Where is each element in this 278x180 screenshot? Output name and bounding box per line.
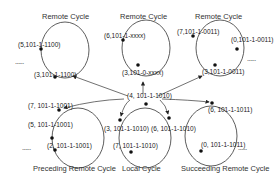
remote-cycle-left-title: Remote Cycle (42, 13, 89, 21)
ellipsis: ...... (15, 58, 24, 65)
cycle-diagram (0, 0, 278, 180)
node-label: (7,101-1-0011) (177, 29, 220, 36)
ellipsis: ...... (247, 55, 256, 62)
local-cycle-ring (119, 108, 171, 168)
node-label: (0,101-1-0011) (231, 37, 274, 44)
node-label: (3,101-1-1100) (34, 72, 77, 79)
node-label: (6,101-1-xxxx) (104, 33, 146, 40)
preceding-cycle-ring (52, 108, 104, 168)
preceding-cycle-title: Preceding Remote Cycle (33, 165, 116, 173)
ellipsis: ...... (238, 144, 247, 151)
node-label: (7, 101-1-1010) (113, 143, 158, 150)
ellipsis: ...... (22, 144, 31, 151)
remote-cycle-right-title: Remote Cycle (195, 13, 242, 21)
local-cycle-title: Local Cycle (122, 165, 161, 173)
remote-cycle-center-ring (122, 20, 170, 76)
node-label: (4, 101-1-1010) (127, 93, 172, 100)
node-label: (3, 101-1-1010) (104, 126, 149, 133)
node-label: (7, 101-1-1001) (28, 103, 73, 110)
remote-cycle-left-ring (41, 22, 89, 78)
node-label: (5, 101-1-1001) (28, 122, 73, 129)
node-label: (6, 101-1-1010) (151, 126, 196, 133)
succeeding-cycle-ring (185, 106, 237, 166)
node-label: (3,101-1-0011) (202, 69, 245, 76)
succeeding-cycle-title: Succeeding Remote Cycle (181, 165, 269, 173)
node-label: (6, 101-1-1011) (208, 107, 252, 114)
remote-cycle-center-title: Remote Cycle (120, 13, 167, 21)
node-label: (5,101-1-1100) (18, 42, 61, 49)
node-label: (3,101-0-xxxx) (122, 70, 164, 77)
node-label: (2, 101-1-1001) (47, 143, 92, 150)
